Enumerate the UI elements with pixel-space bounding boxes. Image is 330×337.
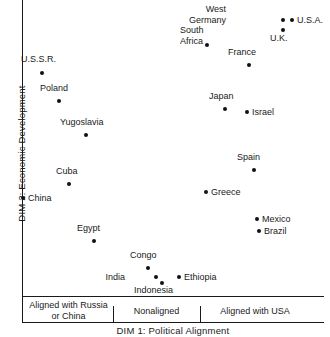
data-point-south-africa xyxy=(205,43,209,47)
data-point-label-spain: Spain xyxy=(237,152,260,163)
data-point-congo xyxy=(146,266,150,270)
data-point-label-france: France xyxy=(228,47,256,58)
data-point-yugoslavia xyxy=(84,133,88,137)
data-point-label-brazil: Brazil xyxy=(264,226,287,237)
data-point-ethiopia xyxy=(177,275,181,279)
data-point-label-south-africa: South Africa xyxy=(180,25,204,46)
data-point-label-cuba: Cuba xyxy=(56,166,78,177)
data-point-label-indonesia: Indonesia xyxy=(134,285,173,296)
data-point-label-u-s-a: U.S.A. xyxy=(297,15,323,26)
data-point-u-s-a xyxy=(290,18,294,22)
data-point-mexico xyxy=(255,217,259,221)
data-point-label-india: India xyxy=(0,272,125,283)
data-point-spain xyxy=(252,168,256,172)
data-point-france xyxy=(247,63,251,67)
data-point-label-ethiopia: Ethiopia xyxy=(184,272,217,283)
data-point-egypt xyxy=(92,239,96,243)
data-point-label-china: China xyxy=(28,193,52,204)
x-axis-label: DIM 1: Political Alignment xyxy=(22,325,324,336)
data-point-label-japan: Japan xyxy=(209,91,234,102)
x-category-label-aligned-usa: Aligned with USA xyxy=(200,306,310,317)
data-point-poland xyxy=(57,99,61,103)
data-point-greece xyxy=(204,190,208,194)
data-point-label-egypt: Egypt xyxy=(77,223,100,234)
category-band-divider xyxy=(22,296,324,297)
data-point-label-greece: Greece xyxy=(211,187,241,198)
data-point-label-mexico: Mexico xyxy=(262,214,291,225)
data-point-u-k xyxy=(281,28,285,32)
data-point-brazil xyxy=(257,229,261,233)
data-point-china xyxy=(21,196,25,200)
data-point-label-u-k: U.K. xyxy=(270,33,288,44)
data-point-label-israel: Israel xyxy=(252,107,274,118)
data-point-cuba xyxy=(67,182,71,186)
x-axis-line xyxy=(22,322,324,323)
data-point-label-poland: Poland xyxy=(40,83,68,94)
data-point-label-congo: Congo xyxy=(130,250,157,261)
x-category-label-aligned-russia: Aligned with Russia or China xyxy=(24,300,113,322)
data-point-label-west-germany: West Germany xyxy=(0,4,226,25)
data-point-label-u-s-s-r: U.S.S.R. xyxy=(21,54,56,65)
data-point-west-germany xyxy=(281,18,285,22)
data-point-israel xyxy=(245,110,249,114)
data-point-label-yugoslavia: Yugoslavia xyxy=(60,117,104,128)
x-category-label-nonaligned: Nonaligned xyxy=(113,306,200,317)
scatter-plot: DIM 2: Economic Development DIM 1: Polit… xyxy=(0,0,330,337)
data-point-india xyxy=(154,275,158,279)
y-axis-label: DIM 2: Economic Development xyxy=(16,59,27,249)
data-point-u-s-s-r xyxy=(40,71,44,75)
data-point-japan xyxy=(223,107,227,111)
